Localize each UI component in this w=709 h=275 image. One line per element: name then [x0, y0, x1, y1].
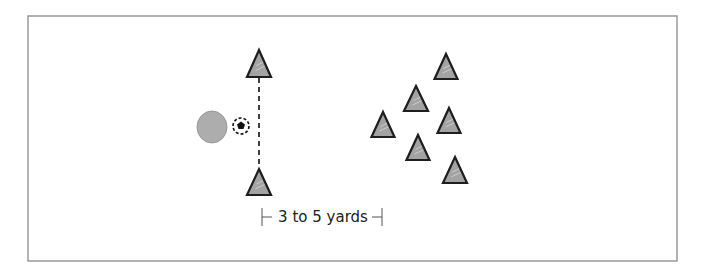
distance-measure: 3 to 5 yards	[262, 208, 382, 226]
distance-label: 3 to 5 yards	[278, 208, 368, 226]
player-circle-icon	[197, 111, 227, 143]
drill-diagram: 3 to 5 yards	[0, 0, 709, 275]
soccer-ball-icon	[233, 118, 249, 134]
